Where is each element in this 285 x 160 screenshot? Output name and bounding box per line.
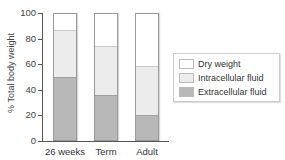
bar-term: [94, 13, 118, 141]
bar-segment-icf: [54, 30, 76, 77]
y-axis-line: [42, 13, 43, 141]
legend-label: Dry weight: [198, 59, 241, 69]
y-tick: [38, 90, 42, 91]
legend-label: Intracellular fluid: [198, 73, 264, 83]
x-tick-label: Adult: [122, 146, 172, 157]
y-tick: [38, 64, 42, 65]
x-axis-line: [42, 141, 169, 142]
bar-segment-ecf: [136, 115, 158, 140]
y-tick-label: 80: [10, 34, 36, 44]
y-tick: [38, 115, 42, 116]
y-tick-label: 60: [10, 59, 36, 69]
legend-swatch-dry: [179, 59, 194, 69]
y-tick-label: 40: [10, 85, 36, 95]
bar-26-weeks: [53, 13, 77, 141]
bar-segment-dry: [95, 14, 117, 46]
legend-swatch-ecf: [179, 87, 194, 97]
y-tick: [38, 141, 42, 142]
y-tick: [38, 39, 42, 40]
legend-swatch-icf: [179, 73, 194, 83]
bar-segment-dry: [54, 14, 76, 30]
stacked-bar-chart: % Total body weight 020406080100 26 week…: [0, 0, 285, 160]
legend: Dry weight Intracellular fluid Extracell…: [173, 53, 280, 102]
y-tick-label: 100: [10, 8, 36, 18]
y-tick: [38, 13, 42, 14]
bar-segment-ecf: [95, 95, 117, 140]
bar-adult: [135, 13, 159, 141]
legend-item-dry-weight: Dry weight: [179, 58, 241, 70]
bar-segment-icf: [136, 66, 158, 115]
bar-segment-dry: [136, 14, 158, 66]
legend-item-extracellular: Extracellular fluid: [179, 86, 267, 98]
legend-item-intracellular: Intracellular fluid: [179, 72, 264, 84]
legend-label: Extracellular fluid: [198, 87, 267, 97]
y-tick-label: 20: [10, 110, 36, 120]
bar-segment-icf: [95, 46, 117, 95]
bar-segment-ecf: [54, 77, 76, 140]
y-tick-label: 0: [10, 136, 36, 146]
